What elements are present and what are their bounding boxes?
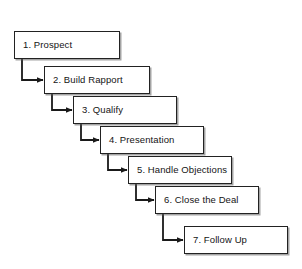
flowchart-node-label: 1. Prospect (15, 40, 72, 50)
flowchart-node-step-1[interactable]: 1. Prospect (14, 31, 120, 59)
connector-step-5-to-step-6 (136, 184, 154, 200)
flowchart-node-step-4[interactable]: 4. Presentation (100, 126, 204, 154)
flowchart-node-label: 5. Handle Objections (129, 165, 227, 175)
flowchart-canvas: 1. Prospect 2. Build Rapport 3. Qualify … (0, 0, 302, 269)
flowchart-node-step-5[interactable]: 5. Handle Objections (128, 156, 232, 184)
flowchart-node-label: 2. Build Rapport (45, 75, 123, 85)
connector-step-4-to-step-5 (108, 154, 127, 170)
connector-step-1-to-step-2 (22, 59, 43, 80)
connector-step-6-to-step-7 (163, 214, 183, 240)
flowchart-node-step-7[interactable]: 7. Follow Up (184, 226, 288, 254)
connector-step-3-to-step-4 (81, 124, 99, 140)
flowchart-node-step-3[interactable]: 3. Qualify (73, 96, 177, 124)
flowchart-node-label: 3. Qualify (74, 105, 123, 115)
flowchart-node-step-6[interactable]: 6. Close the Deal (155, 186, 259, 214)
connector-step-2-to-step-3 (52, 94, 72, 110)
flowchart-node-label: 6. Close the Deal (156, 195, 239, 205)
flowchart-node-step-2[interactable]: 2. Build Rapport (44, 66, 150, 94)
flowchart-node-label: 4. Presentation (101, 135, 174, 145)
flowchart-node-label: 7. Follow Up (185, 235, 247, 245)
